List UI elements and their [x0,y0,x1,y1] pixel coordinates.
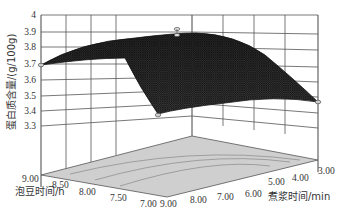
svg-text:6.00: 6.00 [245,189,262,199]
svg-text:3.6: 3.6 [24,75,36,85]
z-axis-ticks: 4 3.9 3.8 3.7 3.6 3.5 3.4 3.3 [24,10,36,131]
svg-text:7.00: 7.00 [217,192,234,202]
design-point-right [315,100,321,104]
design-point-front [155,113,161,117]
svg-text:5.00: 5.00 [268,177,285,187]
svg-text:4.00: 4.00 [292,173,309,183]
svg-text:9.00: 9.00 [22,174,39,184]
response-surface [41,33,318,114]
surface-chart: 4 3.9 3.8 3.7 3.6 3.5 3.4 3.3 蛋白质含量/(g/1… [0,0,342,209]
svg-text:8.00: 8.00 [190,195,207,205]
svg-text:3.4: 3.4 [24,106,36,116]
z-axis-label: 蛋白质含量/(g/100g) [5,34,17,130]
svg-text:3.8: 3.8 [24,42,36,52]
svg-text:3.7: 3.7 [24,59,36,69]
svg-text:3.5: 3.5 [24,91,36,101]
x-axis-label: 煮浆时间/min [268,190,330,202]
svg-text:3.9: 3.9 [24,27,36,37]
svg-text:3.3: 3.3 [24,121,36,131]
svg-text:7.00: 7.00 [140,199,157,209]
svg-text:7.50: 7.50 [110,193,127,203]
design-point-left [38,63,44,67]
svg-text:9.00: 9.00 [160,199,177,209]
svg-text:3.00: 3.00 [318,166,335,176]
svg-text:4: 4 [31,10,36,20]
y-axis-label: 泡豆时间/h [15,185,65,197]
svg-text:8.00: 8.00 [79,187,96,197]
